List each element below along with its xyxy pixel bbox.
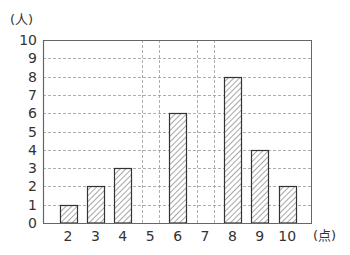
x-tick-label: 6 [173,228,182,244]
x-tick-labels: 2345678910 [64,228,297,244]
y-tick-label: 9 [28,50,37,66]
x-tick-label: 8 [228,228,237,244]
bar-9 [252,151,269,224]
x-tick-label: 10 [278,228,296,244]
bar-8 [225,78,242,224]
y-tick-label: 0 [28,215,37,231]
y-tick-label: 6 [28,105,37,121]
x-tick-label: 9 [255,228,264,244]
x-tick-label: 5 [146,228,155,244]
bar-4 [115,169,132,224]
bar-10 [280,187,297,224]
x-tick-label: 4 [118,228,127,244]
y-tick-labels: 012345678910 [19,32,37,231]
x-axis-unit-label: (点) [313,228,336,243]
y-tick-label: 7 [28,87,37,103]
bar-6 [170,114,187,224]
y-tick-label: 1 [28,197,37,213]
y-tick-label: 4 [28,142,37,158]
y-axis-unit-label: (人) [10,12,33,27]
y-tick-label: 3 [28,160,37,176]
x-tick-label: 7 [201,228,210,244]
histogram-chart: 012345678910 2345678910 (人) (点) [0,0,350,255]
y-tick-label: 2 [28,178,37,194]
y-tick-label: 10 [19,32,37,48]
y-tick-label: 5 [28,124,37,140]
y-tick-label: 8 [28,69,37,85]
x-tick-label: 2 [64,228,73,244]
bar-3 [88,187,105,224]
x-tick-label: 3 [91,228,100,244]
bar-2 [61,206,78,224]
